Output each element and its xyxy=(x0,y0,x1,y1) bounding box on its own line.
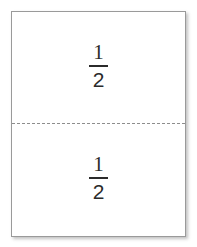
fraction-numerator: 1 xyxy=(93,154,104,176)
fraction-one-half-top: 1 2 xyxy=(89,42,108,90)
figure-canvas: 1 2 1 2 xyxy=(0,0,197,247)
whole-rectangle: 1 2 1 2 xyxy=(11,11,186,237)
fraction-numerator: 1 xyxy=(93,42,104,64)
fraction-part-top: 1 2 xyxy=(12,12,185,124)
fraction-bar-icon xyxy=(89,177,108,179)
fraction-one-half-bottom: 1 2 xyxy=(89,154,108,202)
fraction-part-bottom: 1 2 xyxy=(12,124,185,236)
fraction-bar-icon xyxy=(89,65,108,67)
fraction-denominator: 2 xyxy=(93,180,105,202)
fraction-denominator: 2 xyxy=(93,68,105,90)
